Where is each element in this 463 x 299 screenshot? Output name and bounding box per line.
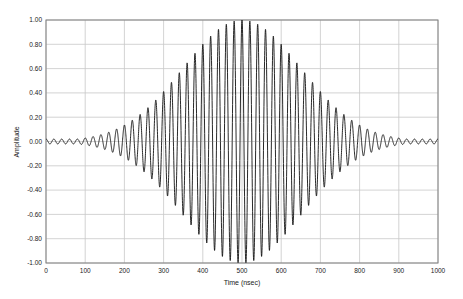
y-tick-label: 0.60	[29, 65, 42, 72]
y-axis-tick-labels: 1.000.800.600.400.200.00-0.20-0.40-0.60-…	[27, 16, 42, 266]
x-axis-tick-labels: 01002003004005006007008009001000	[44, 267, 445, 274]
x-axis-title: Time (nsec)	[224, 279, 261, 287]
chart: 1.000.800.600.400.200.00-0.20-0.40-0.60-…	[0, 0, 463, 299]
y-axis-title: Amplitude	[13, 126, 21, 157]
x-tick-label: 900	[393, 267, 404, 274]
x-tick-label: 600	[276, 267, 287, 274]
x-tick-label: 700	[315, 267, 326, 274]
y-tick-label: -0.20	[27, 162, 42, 169]
x-tick-label: 200	[119, 267, 130, 274]
y-tick-label: 0.20	[29, 114, 42, 121]
y-tick-label: -0.80	[27, 235, 42, 242]
x-tick-label: 100	[80, 267, 91, 274]
x-tick-label: 300	[158, 267, 169, 274]
x-tick-label: 400	[197, 267, 208, 274]
x-tick-label: 500	[237, 267, 248, 274]
y-tick-label: 0.40	[29, 89, 42, 96]
grid-lines	[46, 20, 438, 263]
y-tick-label: 1.00	[29, 16, 42, 23]
y-tick-label: -0.60	[27, 211, 42, 218]
x-tick-label: 1000	[431, 267, 446, 274]
x-tick-label: 0	[44, 267, 48, 274]
y-tick-label: 0.00	[29, 138, 42, 145]
x-tick-label: 800	[354, 267, 365, 274]
y-tick-label: -1.00	[27, 259, 42, 266]
y-tick-label: -0.40	[27, 186, 42, 193]
y-tick-label: 0.80	[29, 41, 42, 48]
